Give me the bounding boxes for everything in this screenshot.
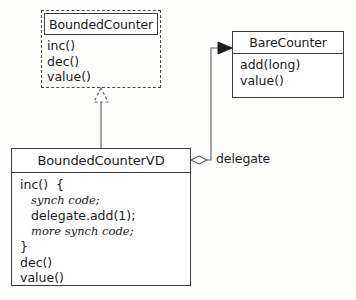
- member-line: value(): [20, 270, 190, 286]
- class-box-bare-counter[interactable]: BareCounter add(long) value(): [232, 31, 344, 98]
- member-line: value(): [47, 69, 157, 85]
- class-title-bounded-counter: BoundedCounter: [44, 13, 158, 35]
- member-line: synch code;: [20, 193, 190, 209]
- member-line: dec(): [47, 54, 157, 70]
- member-line: more synch code;: [20, 224, 190, 240]
- connector-label-delegate: delegate: [216, 151, 270, 166]
- class-members-bounded-counter-vd: inc() { synch code; delegate.add(1); mor…: [12, 173, 190, 286]
- class-members-bare-counter: add(long) value(): [233, 54, 343, 89]
- class-title-bare-counter: BareCounter: [233, 32, 343, 54]
- realization-connector: [94, 88, 108, 148]
- member-line: inc(): [47, 38, 157, 54]
- uml-diagram-canvas: BoundedCounter inc() dec() value() BareC…: [0, 0, 356, 300]
- member-line: add(long): [240, 57, 343, 73]
- hollow-diamond-icon: [191, 156, 207, 164]
- class-box-bounded-counter-vd[interactable]: BoundedCounterVD inc() { synch code; del…: [11, 148, 191, 286]
- member-line: inc() {: [20, 177, 190, 193]
- member-line: }: [20, 239, 190, 255]
- class-box-bounded-counter[interactable]: BoundedCounter inc() dec() value(): [41, 10, 161, 88]
- hollow-triangle-icon: [94, 88, 108, 102]
- member-line: dec(): [20, 255, 190, 271]
- aggregation-connector: [191, 42, 232, 164]
- member-line: value(): [240, 73, 343, 89]
- class-title-bounded-counter-vd: BoundedCounterVD: [12, 149, 190, 173]
- aggregation-line: [207, 48, 225, 160]
- class-members-bounded-counter: inc() dec() value(): [47, 38, 157, 85]
- member-line: delegate.add(1);: [20, 208, 190, 224]
- filled-arrowhead-icon: [218, 42, 232, 54]
